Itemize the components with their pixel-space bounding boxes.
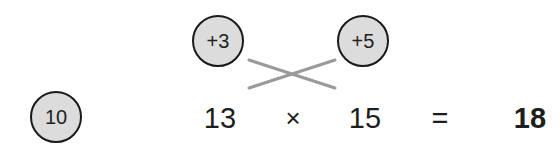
offset-circle-plus5: +5 xyxy=(337,15,389,67)
cross-lines xyxy=(0,0,560,153)
multiply-operator: × xyxy=(285,101,300,135)
cross-line-down xyxy=(249,60,335,88)
result-value: 18 xyxy=(514,101,546,135)
right-operand: 15 xyxy=(349,101,381,135)
cross-line-up xyxy=(249,60,335,88)
offset-label: +3 xyxy=(207,30,230,53)
left-operand: 13 xyxy=(204,101,236,135)
offset-label: +5 xyxy=(352,30,375,53)
equals-sign: = xyxy=(432,101,449,135)
base-circle: 10 xyxy=(30,91,82,143)
offset-circle-plus3: +3 xyxy=(192,15,244,67)
base-label: 10 xyxy=(45,106,67,129)
